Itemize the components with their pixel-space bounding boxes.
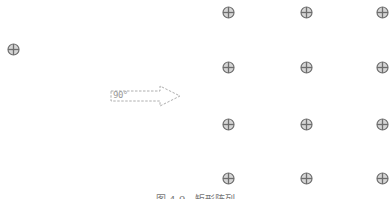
circle-cross-icon <box>301 173 312 184</box>
arrow-label: 90° <box>113 90 128 100</box>
array-symbol <box>376 118 389 131</box>
circle-cross-icon <box>223 173 234 184</box>
array-symbol <box>376 6 389 19</box>
circle-cross-icon <box>301 62 312 73</box>
circle-cross-icon <box>223 119 234 130</box>
circle-cross-icon <box>223 7 234 18</box>
circle-cross-icon <box>377 119 388 130</box>
array-symbol <box>300 6 313 19</box>
array-symbol <box>376 61 389 74</box>
circle-cross-icon <box>301 119 312 130</box>
circle-cross-icon <box>377 173 388 184</box>
circle-cross-icon <box>377 7 388 18</box>
figure-caption: 图 4-9 矩形阵列 <box>0 191 391 199</box>
circle-cross-icon <box>301 7 312 18</box>
source-symbol <box>7 43 20 56</box>
circle-cross-icon <box>223 62 234 73</box>
array-symbol <box>222 6 235 19</box>
array-symbol <box>222 118 235 131</box>
array-symbol <box>300 118 313 131</box>
array-symbol <box>376 172 389 185</box>
array-symbol <box>300 172 313 185</box>
array-symbol <box>300 61 313 74</box>
array-symbol <box>222 61 235 74</box>
circle-cross-icon <box>8 44 19 55</box>
array-symbol <box>222 172 235 185</box>
circle-cross-icon <box>377 62 388 73</box>
